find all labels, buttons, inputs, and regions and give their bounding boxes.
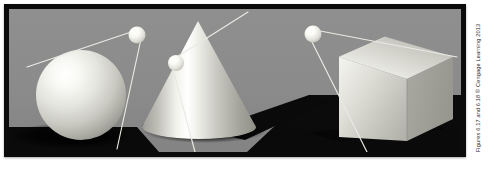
frame-inner-canvas bbox=[9, 9, 461, 152]
light-source-sphere-3 bbox=[305, 26, 322, 43]
scene-svg bbox=[9, 9, 461, 152]
light-source-sphere-1 bbox=[129, 27, 146, 44]
rendered-3d-scene bbox=[9, 9, 461, 152]
figure-credit-text: Figures 6.17 and 6.18 © Cengage Learning… bbox=[475, 24, 481, 152]
light-source-sphere-2 bbox=[168, 55, 184, 71]
sphere-object bbox=[36, 50, 126, 140]
picture-frame bbox=[4, 4, 466, 157]
caption-strip bbox=[6, 170, 206, 177]
figure-root: Figures 6.17 and 6.18 © Cengage Learning… bbox=[0, 0, 496, 177]
